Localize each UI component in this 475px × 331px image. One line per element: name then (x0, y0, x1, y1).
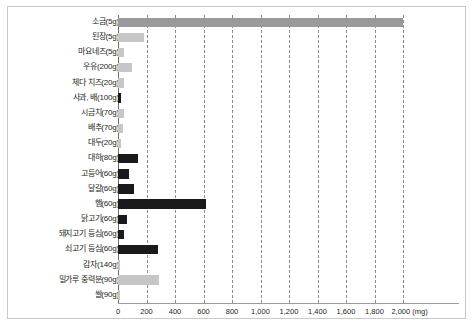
bar (118, 169, 129, 178)
chart-row: 대하(80g) (8, 151, 467, 166)
bar (118, 154, 138, 163)
x-tick-label-2000: 2,000 (mg) (391, 307, 427, 316)
bar (118, 184, 134, 193)
category-label: 감자(140g) (83, 258, 119, 273)
category-label: 시금치(70g) (81, 106, 119, 121)
category-label: 소금(5g) (92, 15, 119, 30)
x-tick-label-1200: 1,200 (280, 307, 299, 316)
bar (118, 260, 120, 269)
chart-row: 밀가루 중력분(90g) (8, 273, 467, 288)
category-label: 된장(5g) (92, 30, 119, 45)
category-label: 대하(80g) (88, 151, 119, 166)
chart-row: 배추(70g) (8, 121, 467, 136)
bar (118, 275, 159, 284)
category-label: 대두(20g) (88, 136, 119, 151)
category-label: 돼지고기 등심(60g) (59, 227, 120, 242)
category-label: 닭고기(60g) (81, 212, 119, 227)
category-label: 우유(200g) (83, 60, 119, 75)
chart-row: 된장(5g) (8, 30, 467, 45)
category-label: 밀가루 중력분(90g) (59, 273, 120, 288)
chart-row: 감자(140g) (8, 258, 467, 273)
x-tick-label-1800: 1,800 (365, 307, 384, 316)
category-label: 쇠고기 등심(60g) (65, 242, 119, 257)
chart-row: 대두(20g) (8, 136, 467, 151)
bar (118, 48, 124, 57)
bar (118, 109, 124, 118)
bar (118, 230, 124, 239)
chart-row: 햄(60g) (8, 197, 467, 212)
bar (118, 78, 124, 87)
plot-area: 소금(5g)된장(5g)마요네즈(5g)우유(200g)체다 치즈(20g)사과… (8, 7, 467, 320)
chart-row: 사과, 배(100g) (8, 91, 467, 106)
x-tick-label-200: 200 (140, 307, 153, 316)
x-axis (118, 303, 459, 304)
chart-frame: 소금(5g)된장(5g)마요네즈(5g)우유(200g)체다 치즈(20g)사과… (7, 6, 466, 319)
category-label: 달걀(60g) (88, 182, 119, 197)
bar (118, 124, 123, 133)
chart-row: 쇠고기 등심(60g) (8, 242, 467, 257)
x-tick-label-400: 400 (169, 307, 182, 316)
category-label: 체다 치즈(20g) (72, 76, 119, 91)
bar (118, 18, 403, 27)
chart-row: 돼지고기 등심(60g) (8, 227, 467, 242)
chart-row: 닭고기(60g) (8, 212, 467, 227)
chart-row: 달걀(60g) (8, 182, 467, 197)
chart-row: 시금치(70g) (8, 106, 467, 121)
category-label: 마요네즈(5g) (78, 45, 119, 60)
x-tick-label-1600: 1,600 (337, 307, 356, 316)
bar (118, 290, 120, 299)
chart-row: 마요네즈(5g) (8, 45, 467, 60)
bar (118, 63, 132, 72)
bar (118, 245, 158, 254)
chart-row: 고등어(60g) (8, 167, 467, 182)
x-tick-label-0: 0 (116, 307, 120, 316)
chart-row: 쌀(90g) (8, 288, 467, 303)
x-tick-label-600: 600 (197, 307, 210, 316)
category-label: 고등어(60g) (81, 167, 119, 182)
category-label: 쌀(90g) (95, 288, 119, 303)
x-tick-label-800: 800 (226, 307, 239, 316)
x-tick-label-1400: 1,400 (308, 307, 327, 316)
bar (118, 139, 121, 148)
category-label: 햄(60g) (95, 197, 119, 212)
chart-row: 체다 치즈(20g) (8, 76, 467, 91)
chart-row: 우유(200g) (8, 60, 467, 75)
bar (118, 199, 206, 208)
chart-row: 소금(5g) (8, 15, 467, 30)
bar (118, 215, 127, 224)
bar (118, 93, 121, 102)
category-label: 사과, 배(100g) (73, 91, 119, 106)
x-tick-label-1000: 1,000 (251, 307, 270, 316)
bar (118, 33, 144, 42)
category-label: 배추(70g) (88, 121, 119, 136)
